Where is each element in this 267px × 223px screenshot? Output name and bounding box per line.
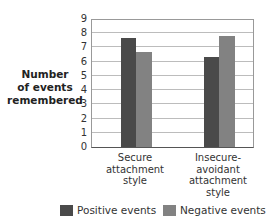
x-category-label-line: style	[95, 175, 175, 187]
y-tick-label: 6	[77, 57, 87, 67]
bar-negative-events	[136, 52, 152, 147]
x-category-label: Secureattachmentstyle	[95, 152, 175, 187]
plot-area	[91, 19, 254, 148]
y-tick-label: 7	[77, 42, 87, 52]
x-category-label-line: attachment	[178, 175, 258, 187]
y-tick-label: 8	[77, 28, 87, 38]
y-tick-label: 3	[77, 99, 87, 109]
x-category-label-line: avoidant	[178, 164, 258, 176]
legend-swatch	[163, 205, 176, 216]
y-axis-label: Number of events remembered	[6, 68, 84, 107]
y-tick-label: 1	[77, 128, 87, 138]
x-category-label-line: Secure	[95, 152, 175, 164]
y-tick-label: 9	[77, 14, 87, 24]
legend-label: Positive events	[77, 204, 156, 216]
y-tick-label: 4	[77, 85, 87, 95]
x-category-label-line: style	[178, 187, 258, 199]
y-axis-label-line: of events	[6, 81, 84, 94]
y-tick-label: 0	[77, 142, 87, 152]
bar-positive-events	[204, 57, 220, 147]
legend-label: Negative events	[180, 204, 266, 216]
y-tick-label: 5	[77, 71, 87, 81]
gridline	[92, 32, 253, 33]
legend-swatch	[60, 205, 73, 216]
x-category-label-line: attachment	[95, 164, 175, 176]
y-tick-label: 2	[77, 114, 87, 124]
x-category-label-line: Insecure-	[178, 152, 258, 164]
x-category-label: Insecure-avoidantattachmentstyle	[178, 152, 258, 198]
y-axis-label-line: Number	[6, 68, 84, 81]
bar-negative-events	[219, 36, 235, 147]
bar-positive-events	[121, 38, 137, 148]
y-axis-label-line: remembered	[6, 94, 84, 107]
